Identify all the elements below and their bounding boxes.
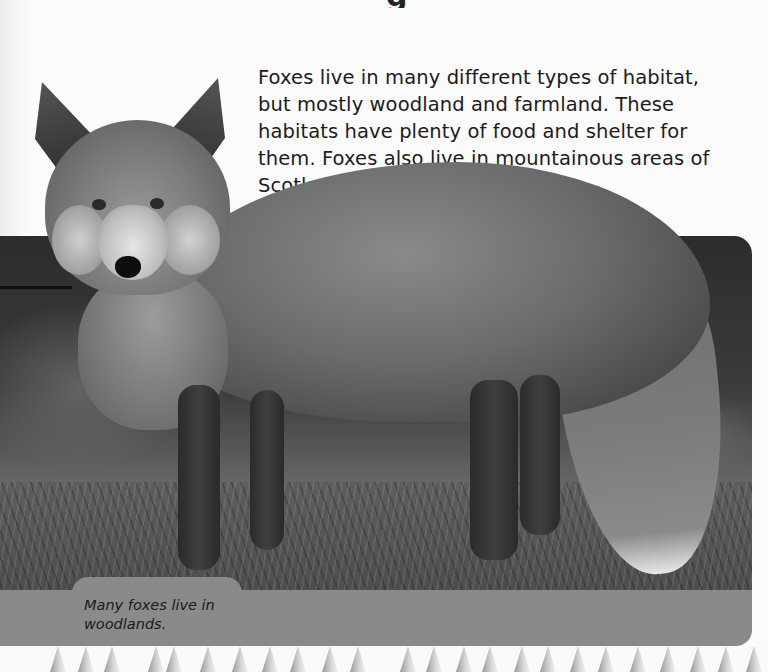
grass-blade-icon: [322, 646, 338, 672]
grass-blade-icon: [400, 646, 416, 672]
grass-blade-icon: [482, 646, 498, 672]
grass-blade-icon: [630, 646, 646, 672]
grass-blade-icon: [104, 646, 120, 672]
grass-blade-icon: [232, 646, 248, 672]
grass-blade-icon: [426, 646, 442, 672]
heading-fragment: g: [386, 0, 446, 8]
woodland-photo: [0, 236, 752, 612]
grass-blade-icon: [718, 646, 734, 672]
grass-blade-icon: [540, 646, 556, 672]
grass-blade-icon: [598, 646, 614, 672]
fox-eye: [150, 198, 164, 209]
fox-ear: [35, 82, 105, 177]
grass-blade-icon: [570, 646, 586, 672]
fox-ear: [155, 78, 225, 178]
grass-blade-icon: [200, 646, 216, 672]
grass-blade-icon: [350, 646, 366, 672]
grass-border: [0, 646, 768, 672]
grass-blade-icon: [166, 646, 182, 672]
fox-eye: [92, 199, 106, 210]
grass-blade-icon: [262, 646, 278, 672]
grass-blade-icon: [660, 646, 676, 672]
grass-blade-icon: [456, 646, 472, 672]
twig: [0, 286, 72, 289]
book-page: g Foxes live in many different types of …: [0, 0, 768, 672]
grass-blade-icon: [746, 646, 762, 672]
intro-paragraph: Foxes live in many different types of ha…: [258, 64, 738, 199]
grass-blade-icon: [690, 646, 706, 672]
grass-blade-icon: [514, 646, 530, 672]
grass-blade-icon: [148, 646, 164, 672]
photo-caption: Many foxes live in woodlands.: [84, 596, 244, 634]
grass-blade-icon: [290, 646, 306, 672]
grass-blade-icon: [78, 646, 94, 672]
grass-blade-icon: [50, 646, 66, 672]
